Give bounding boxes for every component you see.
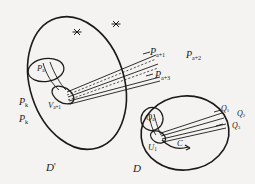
label-left-ray-2: Pa+2 (186, 50, 201, 61)
label-left-stack-lower: Pk (19, 114, 28, 125)
label-left-inner-set: Pa (37, 64, 44, 74)
figure-vector-layer (0, 0, 255, 184)
label-right-ray-1: Q1 (221, 105, 229, 114)
label-right-ray-3: Q3 (232, 122, 240, 131)
right-ray-bundle (161, 110, 226, 142)
left-connector-arc (43, 62, 66, 90)
label-right-vertex-set: U1 (148, 143, 157, 153)
left-domain-outline (11, 4, 142, 162)
label-left-ray-3: Pa+3 (155, 70, 170, 81)
asterisk-mark-right (112, 21, 121, 27)
left-inner-set-outline (27, 56, 66, 84)
label-left-stack-upper: Pk (19, 97, 28, 108)
label-right-domain: D (133, 163, 141, 174)
label-left-domain: D' (46, 162, 56, 173)
left-ray-bundle (67, 52, 160, 104)
label-right-inner-set: Qa (146, 113, 154, 123)
asterisk-mark-left (73, 29, 82, 35)
label-left-vertex-set: Va+1 (48, 101, 61, 111)
label-right-ray-2: Q2 (237, 110, 245, 119)
label-curve-c: C (177, 139, 183, 149)
figure-canvas: Pa Va+1 Pk Pk Pa+1 Pa+2 Pa+3 D' Qa U1 C … (0, 0, 255, 184)
label-left-ray-1: Pa+1 (150, 47, 165, 58)
